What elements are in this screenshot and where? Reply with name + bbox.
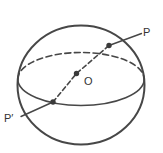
- sphere-diagram-svg: P O P′: [0, 0, 163, 153]
- point-p-prime-label: P′: [4, 112, 13, 124]
- center-o-marker: [74, 71, 79, 76]
- equator-front-solid-arc: [18, 79, 144, 106]
- diameter-line-outside-p-prime: [21, 102, 53, 117]
- point-p-marker: [106, 43, 111, 48]
- sphere-diagram: P O P′: [0, 0, 163, 153]
- center-o-label: O: [84, 75, 93, 87]
- equator-back-dashed-arc: [18, 53, 144, 80]
- point-p-label: P: [143, 26, 150, 38]
- diameter-line-outside-p: [109, 34, 142, 46]
- sphere-outline-circle: [18, 26, 145, 145]
- point-p-prime-marker: [50, 99, 55, 104]
